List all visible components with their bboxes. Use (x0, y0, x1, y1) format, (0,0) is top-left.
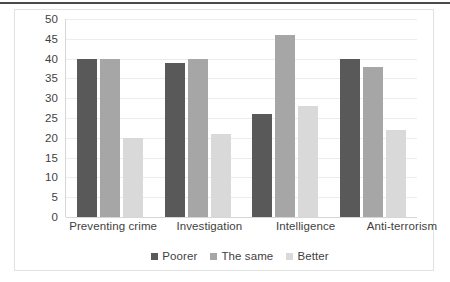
x-axis-tick-label: Anti-terrorism (354, 220, 450, 232)
legend-swatch-icon (151, 253, 158, 260)
y-axis-tick-label: 15 (45, 152, 58, 164)
y-axis-tick-label: 50 (45, 13, 58, 25)
x-axis-tick-label: Investigation (161, 220, 257, 232)
page-top-rule (0, 2, 450, 4)
legend-label: Better (297, 250, 328, 262)
legend-label: Poorer (162, 250, 197, 262)
bar[interactable] (188, 59, 208, 217)
legend-item[interactable]: Poorer (151, 250, 197, 262)
y-axis: 50454035302520151050 (32, 19, 62, 217)
x-axis-tick-label: Preventing crime (65, 220, 161, 232)
x-axis: Preventing crimeInvestigationIntelligenc… (65, 220, 450, 232)
bar[interactable] (340, 59, 360, 217)
bar[interactable] (298, 106, 318, 217)
bar[interactable] (363, 67, 383, 217)
axis-baseline (66, 217, 417, 218)
bars-layer (66, 19, 417, 217)
bar[interactable] (275, 35, 295, 217)
bar-group (66, 19, 154, 217)
chart-legend: PoorerThe sameBetter (15, 250, 450, 262)
plot-area (65, 19, 417, 217)
y-axis-tick-label: 40 (45, 53, 58, 65)
legend-swatch-icon (286, 253, 293, 260)
y-axis-tick-label: 45 (45, 33, 58, 45)
bar[interactable] (386, 130, 406, 217)
legend-item[interactable]: Better (286, 250, 328, 262)
y-axis-tick-label: 35 (45, 72, 58, 84)
bar[interactable] (100, 59, 120, 217)
bar[interactable] (123, 138, 143, 217)
y-axis-tick-label: 20 (45, 132, 58, 144)
y-axis-tick-label: 5 (52, 191, 59, 203)
bar[interactable] (211, 134, 231, 217)
bar[interactable] (165, 63, 185, 217)
chart-frame: 50454035302520151050 Preventing crimeInv… (14, 9, 434, 271)
y-axis-tick-label: 10 (45, 171, 58, 183)
bar-group (154, 19, 242, 217)
y-axis-tick-label: 30 (45, 92, 58, 104)
bar[interactable] (252, 114, 272, 217)
legend-item[interactable]: The same (210, 250, 273, 262)
y-axis-tick-label: 0 (52, 211, 59, 223)
legend-label: The same (221, 250, 273, 262)
y-axis-tick-label: 25 (45, 112, 58, 124)
plot-wrapper: 50454035302520151050 (32, 19, 417, 217)
x-axis-tick-label: Intelligence (258, 220, 354, 232)
bar[interactable] (77, 59, 97, 217)
bar-group (329, 19, 417, 217)
bar-group (242, 19, 330, 217)
legend-swatch-icon (210, 253, 217, 260)
